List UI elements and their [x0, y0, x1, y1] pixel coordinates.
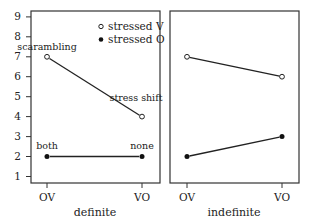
y-tick-label: 3 [14, 130, 21, 142]
y-axis: 1 2 3 4 5 6 7 8 9 [14, 10, 31, 182]
y-tick-label: 2 [14, 150, 21, 162]
annotation-none: none [130, 140, 154, 151]
x-tick-label-vo: VO [273, 191, 290, 203]
y-tick-label: 6 [14, 70, 21, 82]
legend-label-stressed-v: stressed V [108, 20, 164, 32]
x-axis-label-definite: definite [74, 206, 116, 219]
annotation-both: both [36, 140, 58, 151]
y-tick-label: 9 [14, 10, 21, 22]
x-axis-label-indefinite: indefinite [207, 206, 260, 219]
open-circle-marker [140, 114, 145, 119]
filled-circle-marker [45, 154, 50, 159]
annotations-definite: scarambling stress shift both none [17, 41, 162, 151]
x-axis-indefinite: OV VO indefinite [179, 183, 290, 219]
annotation-scarambling: scarambling [17, 41, 76, 52]
legend: stressed V stressed O [99, 20, 165, 45]
y-tick-label: 1 [14, 170, 21, 182]
legend-open-circle-icon [99, 24, 103, 28]
legend-filled-circle-icon [99, 37, 104, 42]
series-stressed-v-definite [45, 54, 145, 119]
series-stressed-o-definite [45, 154, 145, 159]
chart: 1 2 3 4 5 6 7 8 9 OV VO definite OV VO i… [0, 0, 315, 224]
annotation-stress-shift: stress shift [110, 92, 163, 103]
filled-circle-marker [185, 154, 190, 159]
series-stressed-o-indefinite [185, 134, 285, 159]
open-circle-marker [45, 54, 50, 59]
x-axis-definite: OV VO definite [39, 183, 150, 219]
filled-circle-marker [280, 134, 285, 139]
series-stressed-v-indefinite [185, 54, 285, 79]
x-tick-label-vo: VO [133, 191, 150, 203]
y-tick-label: 4 [14, 110, 21, 122]
open-circle-marker [185, 54, 190, 59]
open-circle-marker [280, 74, 285, 79]
legend-label-stressed-o: stressed O [108, 33, 165, 45]
x-tick-label-ov: OV [39, 191, 55, 203]
filled-circle-marker [140, 154, 145, 159]
y-tick-label: 5 [14, 90, 21, 102]
x-tick-label-ov: OV [179, 191, 195, 203]
